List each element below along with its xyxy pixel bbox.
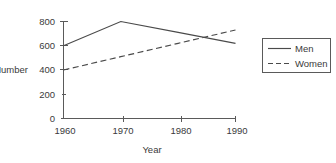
series-line-women — [64, 30, 236, 70]
x-tick-label-1960: 1960 — [54, 125, 75, 136]
y-tick-label-200: 200 — [39, 89, 55, 100]
series-line-men — [64, 22, 236, 46]
chart-canvas: 800 600 400 200 0 Number 1960 1970 1980 … — [0, 0, 336, 163]
y-tick-label-600: 600 — [39, 40, 55, 51]
legend-label-women: Women — [295, 58, 328, 69]
legend: Men Women — [263, 39, 331, 73]
line-chart: 800 600 400 200 0 Number 1960 1970 1980 … — [0, 0, 336, 163]
y-tick-label-400: 400 — [39, 64, 55, 75]
y-tick-label-800: 800 — [39, 16, 55, 27]
x-tick-label-1980: 1980 — [170, 125, 191, 136]
y-axis-title: Number — [0, 64, 28, 75]
x-tick-label-1970: 1970 — [112, 125, 133, 136]
legend-label-men: Men — [295, 43, 313, 54]
x-tick-label-1990: 1990 — [226, 125, 247, 136]
y-tick-label-0: 0 — [50, 113, 55, 124]
x-axis-title: Year — [142, 144, 161, 155]
